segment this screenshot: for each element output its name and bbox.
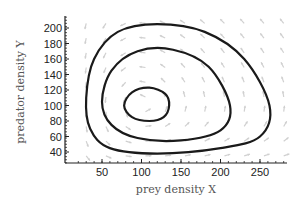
arrowhead-icon bbox=[139, 22, 141, 24]
y-tick-label: 140 bbox=[44, 69, 62, 81]
y-tick-label: 40 bbox=[50, 146, 62, 158]
x-tick-label: 150 bbox=[172, 166, 190, 178]
x-tick-label: 50 bbox=[96, 166, 108, 178]
x-tick-label: 200 bbox=[211, 166, 229, 178]
arrowhead-icon bbox=[149, 155, 151, 157]
y-tick-label: 100 bbox=[44, 100, 62, 112]
y-tick-label: 80 bbox=[50, 115, 62, 127]
y-tick-label: 120 bbox=[44, 84, 62, 96]
x-tick-label: 250 bbox=[251, 166, 269, 178]
arrowhead-icon bbox=[139, 36, 141, 38]
phase-portrait-chart: 50100150200250406080100120140160180200 p… bbox=[0, 0, 303, 206]
x-axis-label: prey density X bbox=[136, 183, 216, 196]
orbit-inner bbox=[124, 88, 169, 121]
y-tick-label: 200 bbox=[44, 22, 62, 34]
y-tick-label: 160 bbox=[44, 53, 62, 65]
orbit-outer bbox=[86, 24, 270, 153]
y-tick-label: 60 bbox=[50, 131, 62, 143]
x-tick-label: 100 bbox=[132, 166, 150, 178]
orbits bbox=[86, 24, 270, 153]
y-axis-label: predator density Y bbox=[14, 40, 27, 144]
y-tick-label: 180 bbox=[44, 38, 62, 50]
